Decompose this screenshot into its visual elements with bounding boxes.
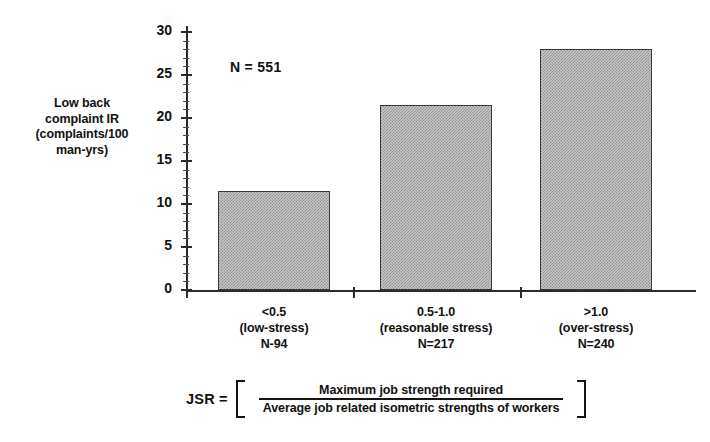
x-axis-category-0-line-0: <0.5: [184, 304, 364, 320]
bracket-right-icon: [577, 380, 586, 418]
y-axis-minor-tick: [183, 101, 189, 102]
y-axis-tick-label-5: 5: [164, 237, 172, 253]
jsr-formula: JSR = Maximum job strength required Aver…: [186, 380, 686, 418]
x-axis-category-0-line-1: (low-stress): [184, 320, 364, 336]
x-axis-category-2-line-2: N=240: [506, 336, 686, 352]
formula-denominator: Average job related isometric strengths …: [259, 400, 564, 416]
y-axis-tick-25: 25: [181, 74, 192, 76]
sample-size-annotation: N = 551: [230, 59, 282, 75]
y-axis-tick-label-30: 30: [156, 22, 172, 38]
y-axis-minor-tick: [183, 281, 189, 282]
y-axis-minor-tick: [183, 58, 189, 59]
formula-left-hand-side: JSR =: [186, 391, 228, 407]
y-axis-minor-tick: [183, 178, 189, 179]
y-axis-minor-tick: [183, 238, 189, 239]
y-axis-tick-15: 15: [181, 160, 192, 162]
x-axis-category-1-line-2: N=217: [346, 336, 526, 352]
bracket-left-icon: [236, 380, 245, 418]
x-axis-tick-1: [353, 287, 355, 298]
formula-fraction: Maximum job strength required Average jo…: [253, 380, 570, 418]
x-axis-category-2-line-1: (over-stress): [506, 320, 686, 336]
y-axis-minor-tick: [183, 127, 189, 128]
x-axis-line: [186, 290, 696, 292]
y-axis-minor-tick: [183, 256, 189, 257]
x-axis-category-1-line-1: (reasonable stress): [346, 320, 526, 336]
y-axis-tick-label-0: 0: [164, 280, 172, 296]
y-axis-minor-tick: [183, 230, 189, 231]
y-axis-minor-tick: [183, 264, 189, 265]
x-axis-tick-2: [520, 287, 522, 298]
bar-2: [540, 49, 652, 290]
x-axis-category-labels: <0.5(low-stress)N-940.5-1.0(reasonable s…: [186, 304, 696, 364]
y-axis-label-line-2: complaint IR: [12, 112, 152, 128]
x-axis-category-2-line-0: >1.0: [506, 304, 686, 320]
y-axis-label-line-1: Low back: [12, 96, 152, 112]
y-axis-tick-label-15: 15: [156, 151, 172, 167]
y-axis-minor-tick: [183, 273, 189, 274]
y-axis-minor-tick: [183, 221, 189, 222]
y-axis-minor-tick: [183, 144, 189, 145]
bar-chart-figure: Low back complaint IR (complaints/100 ma…: [0, 0, 710, 442]
y-axis-minor-tick: [183, 152, 189, 153]
x-axis-category-1-line-0: 0.5-1.0: [346, 304, 526, 320]
y-axis-tick-label-20: 20: [156, 108, 172, 124]
y-axis-minor-tick: [183, 135, 189, 136]
x-axis-tick-0: [186, 287, 188, 298]
x-axis-category-0-line-2: N-94: [184, 336, 364, 352]
y-axis-tick-5: 5: [181, 246, 192, 248]
formula-numerator: Maximum job strength required: [315, 382, 507, 398]
x-axis-category-1: 0.5-1.0(reasonable stress)N=217: [346, 304, 526, 352]
y-axis-minor-tick: [183, 49, 189, 50]
y-axis-minor-tick: [183, 109, 189, 110]
y-axis-minor-tick: [183, 41, 189, 42]
y-axis-minor-tick: [183, 213, 189, 214]
bar-1: [380, 105, 492, 290]
y-axis-label-line-3: (complaints/100: [12, 127, 152, 143]
y-axis-label: Low back complaint IR (complaints/100 ma…: [12, 96, 152, 158]
y-axis-tick-10: 10: [181, 203, 192, 205]
y-axis-minor-tick: [183, 170, 189, 171]
y-axis-tick-label-25: 25: [156, 65, 172, 81]
y-axis-minor-tick: [183, 66, 189, 67]
y-axis-minor-tick: [183, 92, 189, 93]
y-axis-label-line-4: man-yrs): [12, 143, 152, 159]
y-axis-minor-tick: [183, 84, 189, 85]
y-axis-tick-30: 30: [181, 31, 192, 33]
y-axis-minor-tick: [183, 187, 189, 188]
y-axis-minor-tick: [183, 195, 189, 196]
y-axis-tick-label-10: 10: [156, 194, 172, 210]
bar-0: [218, 191, 330, 290]
x-axis-category-0: <0.5(low-stress)N-94: [184, 304, 364, 352]
x-axis-category-2: >1.0(over-stress)N=240: [506, 304, 686, 352]
y-axis-tick-20: 20: [181, 117, 192, 119]
